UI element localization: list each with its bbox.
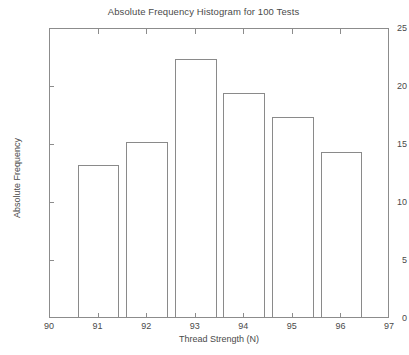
- x-tick-mark: [243, 313, 244, 318]
- x-tick-label: 90: [29, 321, 69, 331]
- x-tick-mark-top: [340, 29, 341, 34]
- x-tick-mark-top: [292, 29, 293, 34]
- x-tick-label: 92: [126, 321, 166, 331]
- x-tick-label: 95: [272, 321, 312, 331]
- x-tick-mark-top: [98, 29, 99, 34]
- chart-title: Absolute Frequency Histogram for 100 Tes…: [0, 6, 407, 17]
- y-tick-label: 5: [367, 255, 407, 265]
- histogram-bar: [321, 152, 363, 317]
- x-tick-mark: [292, 313, 293, 318]
- histogram-bar: [223, 93, 265, 317]
- plot-frame: [49, 28, 389, 318]
- y-tick-label: 15: [367, 139, 407, 149]
- x-tick-mark: [98, 313, 99, 318]
- histogram-bar: [126, 142, 168, 317]
- x-tick-mark: [146, 313, 147, 318]
- x-tick-label: 94: [223, 321, 263, 331]
- y-tick-mark: [49, 260, 54, 261]
- y-axis-label: Absolute Frequency: [12, 88, 22, 268]
- x-axis-label: Thread Strength (N): [49, 334, 389, 344]
- y-tick-mark: [49, 86, 54, 87]
- histogram-bar: [175, 59, 217, 317]
- y-tick-label: 10: [367, 197, 407, 207]
- x-tick-label: 93: [175, 321, 215, 331]
- histogram-bar: [78, 165, 120, 317]
- x-tick-mark-top: [243, 29, 244, 34]
- x-tick-mark-top: [146, 29, 147, 34]
- x-tick-label: 96: [320, 321, 360, 331]
- y-tick-mark: [49, 144, 54, 145]
- x-tick-mark: [340, 313, 341, 318]
- histogram-bar: [272, 117, 314, 317]
- y-tick-label: 20: [367, 81, 407, 91]
- plot-area: [50, 29, 388, 317]
- x-tick-label: 97: [369, 321, 409, 331]
- x-tick-mark-top: [195, 29, 196, 34]
- x-tick-mark: [195, 313, 196, 318]
- y-tick-label: 25: [367, 23, 407, 33]
- y-tick-mark: [49, 202, 54, 203]
- x-tick-label: 91: [78, 321, 118, 331]
